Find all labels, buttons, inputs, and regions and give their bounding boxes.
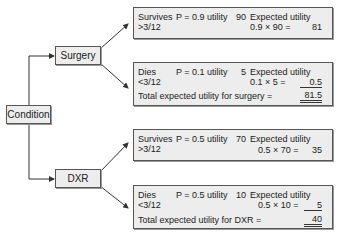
- total-label: Total expected utility for DXR =: [138, 215, 261, 225]
- period-label: <3/12: [138, 77, 161, 87]
- total-label: Total expected utility for surgery =: [138, 91, 272, 101]
- dxr-node: DXR: [55, 169, 101, 188]
- expected-utility-label: Expected utility: [250, 67, 311, 77]
- calculation: 0.5 × 10 =: [258, 200, 299, 210]
- expected-utility-label: Expected utility: [250, 190, 311, 200]
- outcome-label: Dies: [138, 190, 156, 200]
- expected-utility-value: 81: [302, 22, 322, 32]
- utility-value: 70: [234, 134, 246, 144]
- utility-value: 90: [234, 12, 246, 22]
- expected-utility-label: Expected utility: [250, 134, 311, 144]
- condition-label: Condition: [7, 109, 49, 120]
- dxr-dies-box: Dies <3/12 P = 0.5 utility 10 Expected u…: [133, 185, 333, 229]
- condition-node: Condition: [6, 105, 51, 124]
- period-label: >3/12: [138, 22, 161, 32]
- period-label: >3/12: [138, 144, 161, 154]
- expected-utility-value: 5: [304, 200, 322, 211]
- period-label: <3/12: [138, 200, 161, 210]
- probability-text: P = 0.5 utility: [176, 134, 228, 144]
- dxr-survives-box: Survives >3/12 P = 0.5 utility 70 Expect…: [133, 129, 333, 161]
- surgery-node: Surgery: [55, 46, 101, 65]
- outcome-label: Dies: [138, 67, 156, 77]
- probability-text: P = 0.1 utility: [176, 67, 228, 77]
- surgery-dies-box: Dies <3/12 P = 0.1 utility 5 Expected ut…: [133, 62, 333, 106]
- calculation: 0.9 × 90 =: [250, 22, 291, 32]
- surgery-label: Surgery: [60, 50, 95, 61]
- expected-utility-label: Expected utility: [250, 12, 311, 22]
- surgery-survives-box: Survives >3/12 P = 0.9 utility 90 Expect…: [133, 7, 333, 39]
- utility-value: 5: [234, 67, 246, 77]
- outcome-label: Survives: [138, 134, 173, 144]
- calculation: 0.1 × 5 =: [250, 77, 286, 87]
- outcome-label: Survives: [138, 12, 173, 22]
- calculation: 0.5 × 70 =: [258, 145, 299, 155]
- total-value: 40: [304, 214, 322, 227]
- dxr-label: DXR: [67, 173, 88, 184]
- probability-text: P = 0.9 utility: [176, 12, 228, 22]
- utility-value: 10: [234, 190, 246, 200]
- total-value: 81.5: [300, 90, 322, 103]
- probability-text: P = 0.5 utility: [176, 190, 228, 200]
- expected-utility-value: 0.5: [300, 77, 322, 88]
- expected-utility-value: 35: [302, 145, 322, 155]
